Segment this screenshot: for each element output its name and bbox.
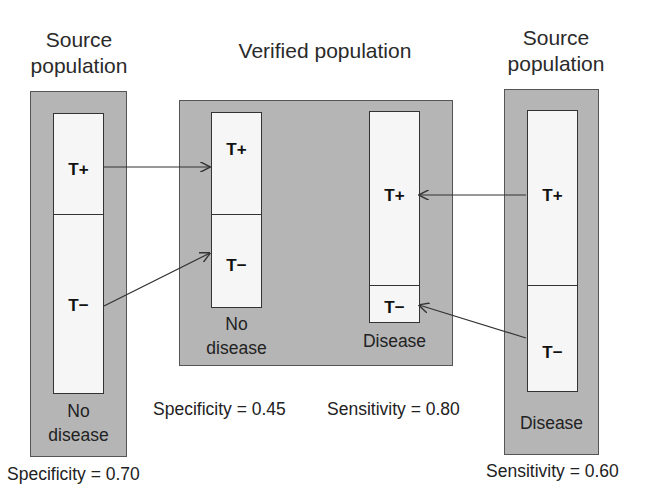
arrow-right-tminus — [419, 305, 526, 338]
arrows-layer — [0, 0, 650, 500]
arrow-left-tminus — [104, 253, 210, 306]
